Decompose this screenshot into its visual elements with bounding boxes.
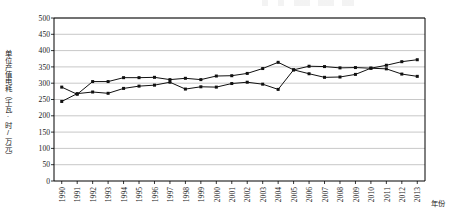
y-tick-label: 300 bbox=[39, 79, 51, 88]
y-tick-label: 200 bbox=[39, 111, 51, 120]
x-tick-label: 2003 bbox=[259, 187, 268, 202]
x-tick-label: 2009 bbox=[352, 187, 361, 202]
data-point-marker bbox=[277, 88, 280, 91]
data-point-marker bbox=[91, 91, 94, 94]
data-point-marker bbox=[60, 86, 63, 89]
x-tick-label: 1998 bbox=[182, 187, 191, 202]
x-tick-label: 2004 bbox=[274, 187, 283, 202]
data-point-marker bbox=[153, 76, 156, 79]
x-tick-label: 2013 bbox=[413, 187, 422, 202]
data-point-marker bbox=[107, 92, 110, 95]
data-point-marker bbox=[354, 73, 357, 76]
data-point-marker bbox=[215, 75, 218, 78]
data-point-marker bbox=[230, 82, 233, 85]
x-tick-label: 2000 bbox=[213, 187, 222, 202]
data-point-marker bbox=[60, 100, 63, 103]
data-point-marker bbox=[308, 65, 311, 68]
data-point-marker bbox=[168, 81, 171, 84]
grid-lines bbox=[54, 18, 425, 165]
data-point-marker bbox=[277, 61, 280, 64]
chart-figure: 单位产值电耗（千瓦·时/万元） 年份 050100150200250300350… bbox=[0, 0, 456, 216]
data-point-marker bbox=[385, 64, 388, 67]
x-tick-label: 1991 bbox=[73, 187, 82, 202]
data-point-marker bbox=[199, 85, 202, 88]
x-tick-label: 2010 bbox=[367, 187, 376, 202]
data-point-marker bbox=[138, 85, 141, 88]
data-point-marker bbox=[76, 92, 79, 95]
y-tick-label: 400 bbox=[39, 46, 51, 55]
data-point-marker bbox=[308, 72, 311, 75]
data-point-marker bbox=[261, 83, 264, 86]
data-point-marker bbox=[246, 81, 249, 84]
data-point-marker bbox=[91, 80, 94, 83]
data-point-marker bbox=[323, 65, 326, 68]
y-tick-label: 150 bbox=[39, 128, 51, 137]
line-chart-plot: 050100150200250300350400450500 199019911… bbox=[0, 0, 456, 216]
x-tick-label: 2011 bbox=[383, 187, 392, 202]
x-tick-label: 1995 bbox=[135, 187, 144, 202]
x-tick-label: 1999 bbox=[197, 187, 206, 202]
y-tick-label: 350 bbox=[39, 63, 51, 72]
data-point-marker bbox=[416, 58, 419, 61]
x-tick-label: 1997 bbox=[166, 187, 175, 202]
x-tick-label: 2012 bbox=[398, 187, 407, 202]
data-point-marker bbox=[122, 76, 125, 79]
data-point-marker bbox=[354, 66, 357, 69]
y-tick-label: 50 bbox=[42, 160, 50, 169]
data-point-marker bbox=[338, 66, 341, 69]
data-point-marker bbox=[385, 67, 388, 70]
x-tick-label: 1996 bbox=[151, 187, 160, 202]
x-tick-label: 1990 bbox=[58, 187, 67, 202]
data-point-marker bbox=[138, 76, 141, 79]
data-point-marker bbox=[107, 80, 110, 83]
x-tick-label: 2005 bbox=[290, 187, 299, 202]
data-series-group bbox=[60, 58, 419, 103]
x-axis-title: 年份 bbox=[431, 197, 445, 208]
y-tick-label: 100 bbox=[39, 144, 51, 153]
y-tick-label: 250 bbox=[39, 95, 51, 104]
data-point-marker bbox=[153, 84, 156, 87]
x-tick-label: 2006 bbox=[305, 187, 314, 202]
data-point-marker bbox=[122, 87, 125, 90]
data-point-marker bbox=[230, 74, 233, 77]
x-tick-label: 1993 bbox=[104, 187, 113, 202]
series-line bbox=[62, 60, 418, 102]
x-tick-label: 2001 bbox=[228, 187, 237, 202]
x-tick-label: 2002 bbox=[243, 187, 252, 202]
data-point-marker bbox=[369, 67, 372, 70]
data-point-marker bbox=[416, 75, 419, 78]
data-point-marker bbox=[184, 77, 187, 80]
y-axis-title-text: 单位产值电耗（千瓦·时/万元） bbox=[3, 49, 14, 158]
data-point-marker bbox=[199, 78, 202, 81]
x-tick-label: 2007 bbox=[321, 187, 330, 202]
data-point-marker bbox=[400, 60, 403, 63]
x-tick-label: 2008 bbox=[336, 187, 345, 202]
data-point-marker bbox=[323, 76, 326, 79]
data-point-marker bbox=[261, 67, 264, 70]
x-axis-ticks: 1990199119921993199419951996199719981999… bbox=[58, 181, 423, 202]
data-point-marker bbox=[400, 73, 403, 76]
y-tick-label: 0 bbox=[46, 177, 50, 186]
data-point-marker bbox=[292, 68, 295, 71]
y-tick-label: 450 bbox=[39, 30, 51, 39]
clipped-caption-artifact bbox=[250, 0, 450, 6]
data-point-marker bbox=[338, 76, 341, 79]
data-point-marker bbox=[246, 72, 249, 75]
y-tick-label: 500 bbox=[39, 14, 51, 23]
data-point-marker bbox=[215, 86, 218, 89]
data-point-marker bbox=[168, 78, 171, 81]
y-axis-title: 单位产值电耗（千瓦·时/万元） bbox=[1, 18, 15, 188]
data-point-marker bbox=[184, 88, 187, 91]
x-tick-label: 1992 bbox=[89, 187, 98, 202]
y-axis-ticks: 050100150200250300350400450500 bbox=[39, 14, 54, 186]
x-tick-label: 1994 bbox=[120, 187, 129, 202]
